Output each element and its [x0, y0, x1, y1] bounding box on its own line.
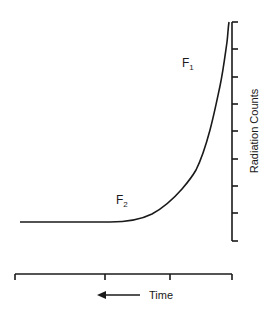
- y-axis: [232, 22, 238, 241]
- chart: F1 F2 Radiation Counts Time: [0, 0, 272, 313]
- y-axis-label: Radiation Counts: [248, 88, 260, 173]
- x-axis-label: Time: [149, 289, 173, 301]
- f1-label: F1: [182, 56, 194, 72]
- left-arrow-icon: [97, 291, 140, 299]
- x-axis: [15, 274, 232, 280]
- f2-label: F2: [116, 193, 128, 209]
- radiation-curve: [20, 22, 229, 222]
